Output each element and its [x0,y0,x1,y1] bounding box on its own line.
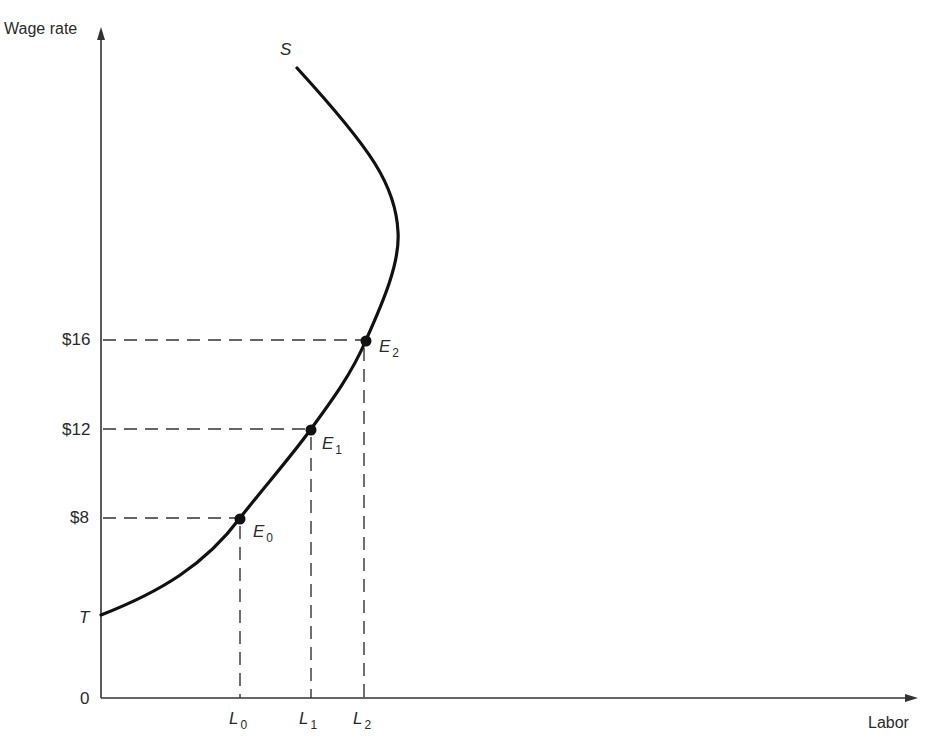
point-e2 [361,336,372,347]
curve-label-s: S [280,40,291,60]
chart-canvas [0,0,950,747]
x-axis-label: Labor [868,714,909,732]
intercept-label-t: T [79,608,89,628]
point-e1 [306,425,317,436]
point-e0 [235,514,246,525]
y-tick-12: $12 [62,420,90,440]
y-axis-arrow-icon [97,27,105,40]
y-tick-8: $8 [70,508,89,528]
point-label-e1: E1 [322,434,342,454]
point-label-e2: E2 [379,337,399,357]
origin-label: 0 [80,689,89,709]
x-tick-l1: L1 [299,709,317,729]
y-tick-16: $16 [62,330,90,350]
point-label-e0: E0 [253,522,273,542]
x-tick-l0: L0 [229,709,247,729]
x-tick-l2: L2 [353,709,371,729]
supply-curve-s [101,68,398,615]
y-axis-label: Wage rate [4,20,77,38]
x-axis-arrow-icon [905,694,918,702]
